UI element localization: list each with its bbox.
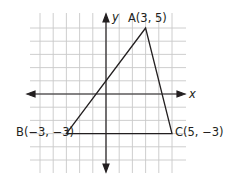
- y-axis-up-arrow-icon: [103, 14, 109, 22]
- x-axis-label: x: [188, 87, 196, 101]
- x-axis-right-arrow-icon: [177, 91, 185, 97]
- y-axis-down-arrow-icon: [103, 164, 109, 172]
- x-axis-left-arrow-icon: [27, 91, 35, 97]
- y-axis-label: y: [111, 10, 119, 24]
- vertex-c-label: C(5, −3): [175, 125, 224, 139]
- vertex-b-label: B(−3, −3): [16, 125, 74, 139]
- coordinate-plane-diagram: x y A(3, 5) B(−3, −3) C(5, −3): [0, 0, 230, 182]
- vertex-a-label: A(3, 5): [128, 11, 167, 25]
- grid-lines: [30, 13, 186, 173]
